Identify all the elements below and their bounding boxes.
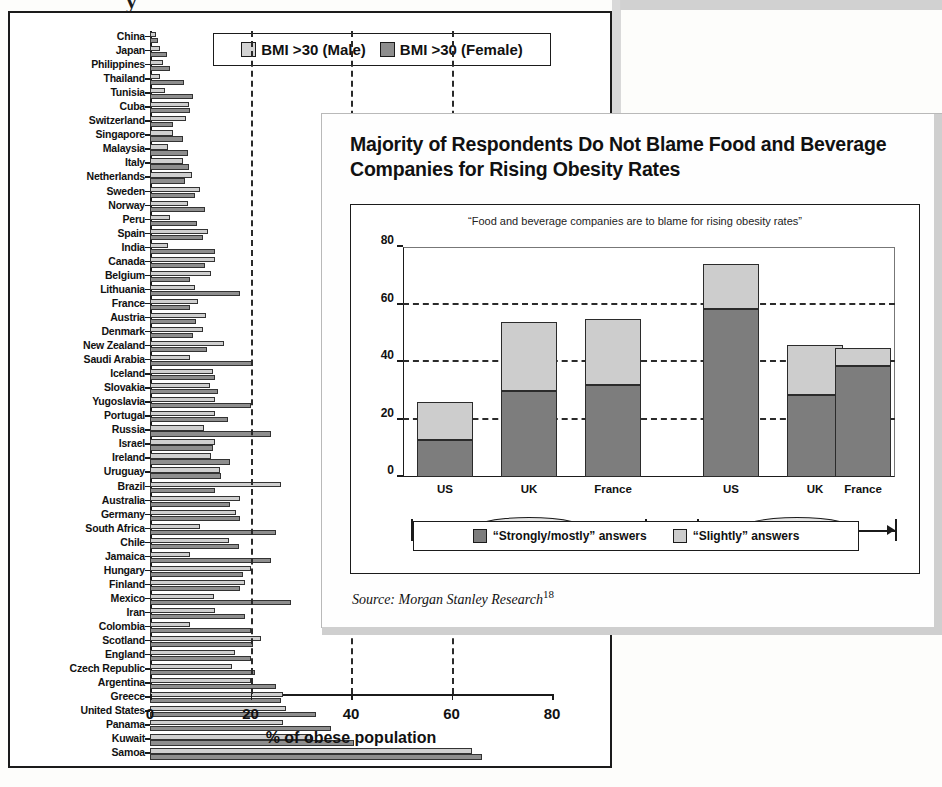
country-label: Sweden [107,185,145,198]
country-label: Russia [112,423,145,436]
country-label: Ireland [112,451,145,464]
bar-male [150,369,213,374]
bar-male [150,524,200,529]
bar-male [150,60,163,65]
bar-segment-slightly [417,402,473,439]
bar-male [150,313,206,318]
legend-item-slightly: “Slightly” answers [673,529,800,543]
stacked-bar [585,319,641,477]
bar-male [150,397,215,402]
bar-male [150,650,235,655]
country-label: Hungary [104,564,145,577]
bar-segment-slightly [703,264,759,309]
right-chart-plot-area: 020406080 USUKFranceUSUKFrance AgreeDisa… [403,247,895,477]
country-label: Peru [122,213,145,226]
bar-female [150,291,240,296]
bar-male [150,88,165,93]
bar-female [150,319,196,324]
bar-female [150,516,240,521]
bar-female [150,502,230,507]
country-label: Brazil [118,480,145,493]
country-label: Scotland [102,634,145,647]
country-label: United States [81,704,146,717]
y-tick-mark [397,245,403,247]
country-bar-row: Scotland [150,635,550,649]
country-label: Singapore [95,128,145,141]
stacked-bar [703,264,759,477]
y-tick-mark [397,418,403,420]
legend-swatch-female-icon [380,42,395,57]
country-bar-row: Samoa [150,747,550,761]
country-label: Portugal [104,409,145,422]
bar-female [150,178,185,183]
category-label: US [417,483,473,495]
bar-female [150,445,213,450]
legend-swatch-slightly-icon [673,529,687,543]
bar-male [150,158,183,163]
bar-male [150,102,189,107]
x-gridline [251,31,253,694]
x-tick-mark [251,694,253,700]
source-footnote: 18 [543,588,554,600]
bar-male [150,439,215,444]
country-label: South Africa [85,522,145,535]
bar-male [150,257,215,262]
bar-male [150,32,156,37]
legend-label-strongly: “Strongly/mostly” answers [493,529,647,543]
country-label: Yugoslavia [92,395,145,408]
country-label: India [121,241,145,254]
bar-segment-slightly [585,319,641,385]
bar-female [150,754,482,759]
country-label: Tunisia [110,86,145,99]
bar-male [150,622,190,627]
bar-female [150,305,190,310]
bar-male [150,383,210,388]
country-label: Panama [106,718,145,731]
bar-female [150,684,276,689]
bar-male [150,425,204,430]
country-label: Switzerland [89,114,145,127]
bar-female [150,431,271,436]
bar-male [150,144,168,149]
bar-male [150,327,203,332]
bar-female [150,473,221,478]
bar-segment-strongly [501,391,557,477]
bar-male [150,580,245,585]
bar-male [150,271,211,276]
bar-male [150,538,229,543]
country-label: Colombia [99,620,145,633]
bar-male [150,566,251,571]
y-tick-label: 80 [381,233,394,247]
bar-male [150,748,472,753]
bar-segment-slightly [835,348,891,367]
left-chart-legend: BMI >30 (Male) BMI >30 (Female) [213,33,551,66]
country-label: Norway [108,199,145,212]
bar-female [150,488,215,493]
bar-female [150,150,188,155]
bar-female [150,122,173,127]
bar-male [150,285,195,290]
bar-female [150,80,184,85]
country-label: China [117,30,145,43]
bar-female [150,389,218,394]
bar-male [150,201,188,206]
country-label: Belgium [105,269,145,282]
bar-female [150,333,193,338]
country-label: Philippines [91,58,145,71]
x-tick-mark [351,694,353,700]
country-label: New Zealand [83,339,145,352]
right-chart-box: “Food and beverage companies are to blam… [350,204,920,574]
country-label: Denmark [101,325,145,338]
legend-label-slightly: “Slightly” answers [693,529,800,543]
y-tick-label: 20 [381,406,394,420]
country-label: Cuba [120,100,145,113]
bar-female [150,459,230,464]
country-label: Greece [111,690,145,703]
legend-swatch-strongly-icon [473,529,487,543]
y-tick-label: 0 [387,463,394,477]
country-label: Germany [101,508,145,521]
bar-female [150,221,197,226]
x-tick-mark [552,694,554,700]
country-label: Austria [110,311,145,324]
country-label: Jamaica [105,550,145,563]
